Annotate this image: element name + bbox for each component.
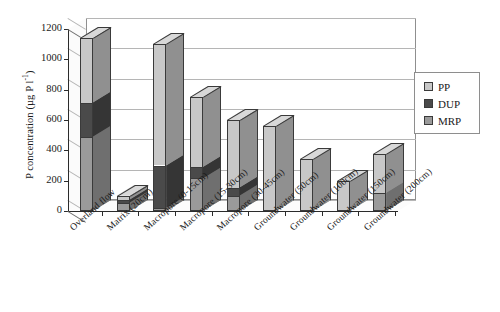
gridline-back-800: [86, 79, 416, 80]
x-tick-1: [138, 212, 139, 216]
chart-figure: P concentration (µg P l-1) 0200400600800…: [0, 0, 500, 312]
y-tick-label-1200: 1200: [28, 23, 62, 33]
bar-back-right-edge: [220, 86, 221, 200]
bar-side-segment-pp: [203, 86, 221, 167]
bar-front-outline: [80, 38, 93, 211]
bar-column: [263, 126, 276, 211]
bar-front-outline: [190, 97, 203, 211]
x-tick-4: [248, 212, 249, 216]
bar-back-right-edge: [110, 27, 111, 200]
legend-swatch-dup: [424, 99, 433, 108]
gridline-back-1200: [86, 18, 416, 19]
x-tick-3: [212, 212, 213, 216]
y-tick-label-200: 200: [28, 175, 62, 185]
x-tick-6: [322, 212, 323, 216]
legend-label-pp: PP: [438, 81, 450, 93]
chart-legend: PP DUP MRP: [414, 72, 480, 134]
x-tick-5: [285, 212, 286, 216]
legend-item-mrp: MRP: [424, 112, 479, 129]
plot-area: 020040060080010001200Overland flowMatrix…: [0, 0, 500, 312]
y-tick-label-1000: 1000: [28, 53, 62, 63]
legend-item-pp: PP: [424, 78, 479, 95]
bar-front-outline: [263, 126, 276, 211]
y-tick-label-400: 400: [28, 144, 62, 154]
legend-item-dup: DUP: [424, 95, 479, 112]
y-tick-label-0: 0: [28, 205, 62, 215]
bar-side-segment-pp: [93, 27, 111, 102]
y-axis-line: [68, 29, 69, 212]
gridline-back-1000: [86, 48, 416, 49]
legend-label-mrp: MRP: [438, 115, 461, 127]
bar-column: [190, 97, 203, 211]
legend-label-dup: DUP: [438, 98, 460, 110]
x-tick-0: [102, 212, 103, 216]
x-tick-2: [175, 212, 176, 216]
bar-column: [227, 120, 240, 211]
bar-front-outline: [153, 44, 166, 211]
bar-side-segment-pp: [166, 33, 184, 165]
legend-swatch-mrp: [424, 116, 433, 125]
x-tick-8: [395, 212, 396, 216]
bar-column: [80, 38, 93, 211]
bar-front-outline: [227, 120, 240, 211]
legend-swatch-pp: [424, 82, 433, 91]
y-tick-label-800: 800: [28, 84, 62, 94]
x-tick-7: [358, 212, 359, 216]
bar-column: [153, 44, 166, 211]
y-tick-label-600: 600: [28, 114, 62, 124]
